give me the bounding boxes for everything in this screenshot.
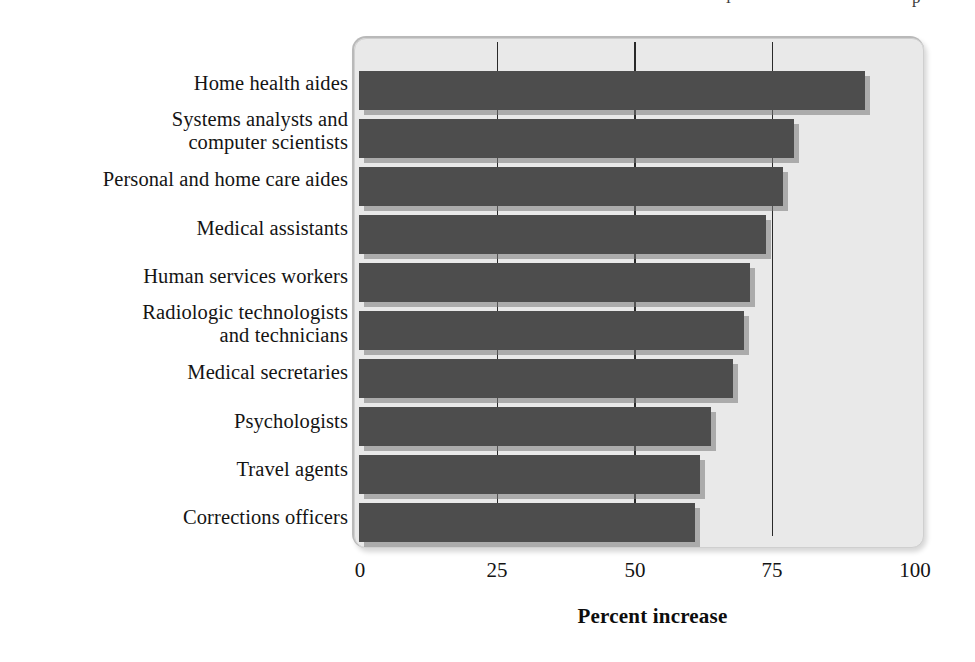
bar-home-health-aides <box>359 71 865 110</box>
bar-travel-agents <box>359 455 700 494</box>
category-label-systems-analysts: Systems analysts and computer scientists <box>0 108 348 154</box>
crop-mark-left: ı <box>726 0 731 8</box>
bar-medical-secretaries <box>359 359 733 398</box>
xtick-0: 0 <box>355 558 366 583</box>
bar-chart-figure: ı p Home health aides Systems analysts a… <box>0 0 975 662</box>
category-label-psychologists: Psychologists <box>0 410 348 433</box>
category-label-human-services-workers: Human services workers <box>0 265 348 288</box>
gridline-75 <box>772 42 774 536</box>
category-label-travel-agents: Travel agents <box>0 458 348 481</box>
category-label-personal-home-care-aides: Personal and home care aides <box>0 168 348 191</box>
category-label-corrections-officers: Corrections officers <box>0 506 348 529</box>
x-axis-tick-labels: 0 25 50 75 100 <box>0 558 975 588</box>
bar-personal-home-care-aides <box>359 167 783 206</box>
bar-human-services-workers <box>359 263 750 302</box>
xtick-75: 75 <box>762 558 783 583</box>
category-label-medical-assistants: Medical assistants <box>0 217 348 240</box>
bar-medical-assistants <box>359 215 766 254</box>
bar-systems-analysts <box>359 119 794 158</box>
x-axis-title-text: Percent increase <box>578 604 728 628</box>
xtick-25: 25 <box>487 558 508 583</box>
cropped-text-sliver: ı p <box>0 0 975 8</box>
category-label-medical-secretaries: Medical secretaries <box>0 361 348 384</box>
bar-radiologic-technologists <box>359 311 744 350</box>
category-label-home-health-aides: Home health aides <box>0 72 348 95</box>
category-axis-labels: Home health aides Systems analysts and c… <box>0 40 348 540</box>
plot-area <box>359 42 915 536</box>
category-label-radiologic-technologists: Radiologic technologists and technicians <box>0 301 348 347</box>
crop-mark-right: p <box>912 0 921 8</box>
bar-psychologists <box>359 407 711 446</box>
xtick-50: 50 <box>625 558 646 583</box>
bar-corrections-officers <box>359 503 695 542</box>
xtick-100: 100 <box>899 558 931 583</box>
x-axis-title: Percent increase <box>0 604 975 629</box>
